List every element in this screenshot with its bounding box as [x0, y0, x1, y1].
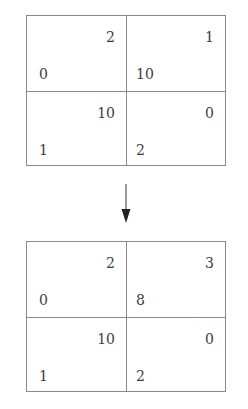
cell-bottom-left-value: 0 — [39, 293, 48, 307]
down-arrow-icon — [121, 184, 131, 224]
cell-top-right-value: 0 — [205, 332, 214, 346]
matrix-cell: 0 2 — [126, 317, 226, 392]
matrix-cell: 2 0 — [27, 242, 127, 317]
cell-bottom-left-value: 8 — [136, 293, 145, 307]
matrix-cell: 2 0 — [27, 16, 127, 91]
matrix-cell: 0 2 — [126, 91, 226, 166]
matrix-cell: 1 10 — [126, 16, 226, 91]
matrix-cell: 3 8 — [126, 242, 226, 317]
cell-top-right-value: 10 — [97, 332, 115, 346]
cell-top-right-value: 2 — [106, 256, 115, 270]
cell-top-right-value: 2 — [106, 30, 115, 44]
cell-bottom-left-value: 1 — [39, 369, 48, 383]
cell-top-right-value: 0 — [205, 106, 214, 120]
cell-bottom-left-value: 2 — [136, 369, 145, 383]
cell-bottom-left-value: 2 — [136, 143, 145, 157]
top-payoff-matrix: 2 0 1 10 10 1 0 2 — [26, 15, 226, 166]
matrix-cell: 10 1 — [27, 91, 127, 166]
bottom-payoff-matrix: 2 0 3 8 10 1 0 2 — [26, 241, 226, 392]
matrix-cell: 10 1 — [27, 317, 127, 392]
cell-bottom-left-value: 0 — [39, 67, 48, 81]
cell-bottom-left-value: 10 — [136, 67, 154, 81]
cell-top-right-value: 10 — [97, 106, 115, 120]
cell-bottom-left-value: 1 — [39, 143, 48, 157]
cell-top-right-value: 3 — [205, 256, 214, 270]
cell-top-right-value: 1 — [205, 30, 214, 44]
